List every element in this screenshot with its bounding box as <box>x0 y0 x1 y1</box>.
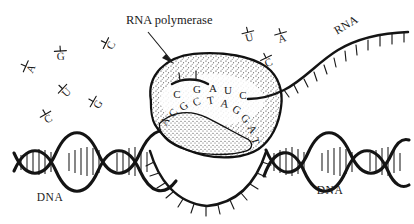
free-nucleotide: G <box>86 94 106 112</box>
free-nucleotide-letter: C <box>103 39 117 51</box>
free-nucleotide: A <box>19 59 38 76</box>
rna-base: A <box>209 82 217 94</box>
free-nucleotide: U <box>241 26 257 44</box>
polymerase-label: RNA polymerase <box>126 13 213 27</box>
diagram-canvas: C G A U C A C G C T A G G A T A <box>0 0 414 224</box>
rna-base: C <box>239 89 246 101</box>
rna-label: RNA <box>332 13 360 37</box>
dna-label-left: DNA <box>37 191 64 203</box>
template-strand-loop <box>150 151 266 206</box>
rna-base: C <box>173 88 180 100</box>
dna-helix-left <box>14 131 176 191</box>
free-nucleotide: A <box>273 27 289 46</box>
rna-base: U <box>224 84 232 96</box>
free-nucleotide: G <box>54 46 67 63</box>
free-nucleotide: C <box>99 35 119 53</box>
free-nucleotide: U <box>55 81 75 101</box>
free-nucleotide-letter: G <box>90 98 104 111</box>
rna-base: G <box>193 83 201 95</box>
transcription-diagram: C G A U C A C G C T A G G A T A <box>0 0 414 224</box>
polymerase-callout-arrow <box>148 32 174 64</box>
free-nucleotide: C <box>38 107 56 127</box>
dna-helix-right <box>264 133 409 192</box>
dna-label-right: DNA <box>317 184 344 196</box>
free-nucleotide-letter: C <box>42 112 54 126</box>
dna-template-loop <box>146 151 271 216</box>
